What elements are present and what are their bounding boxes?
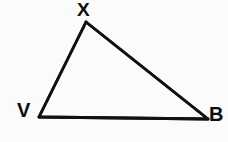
triangle-shape [0,0,228,142]
edge-b-v [39,117,208,119]
vertex-label-v: V [17,100,30,120]
geometry-figure: X V B [0,0,228,142]
vertex-label-b: B [209,104,223,124]
edge-v-x [39,22,86,117]
triangle-outline [39,22,208,119]
vertex-label-x: X [77,0,90,19]
edge-x-b [86,22,208,119]
